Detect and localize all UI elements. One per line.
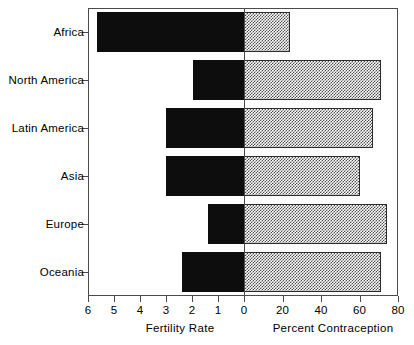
xtick-label-fertility-3: 3 [156,304,176,317]
xtick-label-fertility-5: 5 [104,304,124,317]
xtick-mark-fertility-3 [166,296,167,302]
bar-band-europe [88,204,398,244]
xtick-mark-fertility-6 [88,296,89,302]
xtick-label-contraception-80: 80 [387,304,410,317]
xtick-mark-fertility-1 [218,296,219,302]
bar-band-latin-america [88,108,398,148]
bar-band-africa [88,12,398,52]
bar-band-asia [88,156,398,196]
bars-layer [88,8,398,296]
xtick-mark-zero [244,296,245,302]
contraception-bar-north-america[interactable] [244,60,381,100]
category-label-asia: Asia [61,170,84,182]
fertility-bar-latin-america[interactable] [166,108,244,148]
category-label-oceania: Oceania [40,266,84,278]
fertility-bar-africa[interactable] [97,12,245,52]
xtick-mark-fertility-2 [192,296,193,302]
contraception-bar-oceania[interactable] [244,252,381,292]
category-label-europe: Europe [46,218,84,230]
category-label-latin-america: Latin America [12,122,84,134]
xtick-mark-fertility-5 [114,296,115,302]
bidirectional-bar-chart: Africa North America Latin America Asia … [0,0,414,345]
axis-title-fertility-rate: Fertility Rate [110,322,250,335]
contraception-bar-asia[interactable] [244,156,360,196]
fertility-bar-europe[interactable] [208,204,244,244]
xtick-label-fertility-4: 4 [130,304,150,317]
xtick-label-fertility-1: 1 [208,304,228,317]
xtick-label-fertility-2: 2 [182,304,202,317]
xtick-mark-contraception-80 [398,296,399,302]
zero-divider-line [244,8,245,296]
fertility-bar-oceania[interactable] [182,252,244,292]
xtick-label-contraception-40: 40 [310,304,333,317]
axis-title-percent-contraception: Percent Contraception [253,322,413,335]
contraception-bar-europe[interactable] [244,204,387,244]
contraception-bar-latin-america[interactable] [244,108,373,148]
xtick-label-zero: 0 [234,304,254,317]
xtick-mark-contraception-20 [283,296,284,302]
contraception-bar-africa[interactable] [244,12,290,52]
xtick-mark-contraception-40 [321,296,322,302]
fertility-bar-asia[interactable] [166,156,244,196]
bar-band-north-america [88,60,398,100]
category-label-north-america: North America [9,74,84,86]
category-label-africa: Africa [53,26,84,38]
xtick-label-contraception-20: 20 [271,304,294,317]
xtick-mark-fertility-4 [140,296,141,302]
xtick-label-fertility-6: 6 [78,304,98,317]
xtick-label-contraception-60: 60 [348,304,371,317]
xtick-mark-contraception-60 [360,296,361,302]
bar-band-oceania [88,252,398,292]
fertility-bar-north-america[interactable] [193,60,244,100]
